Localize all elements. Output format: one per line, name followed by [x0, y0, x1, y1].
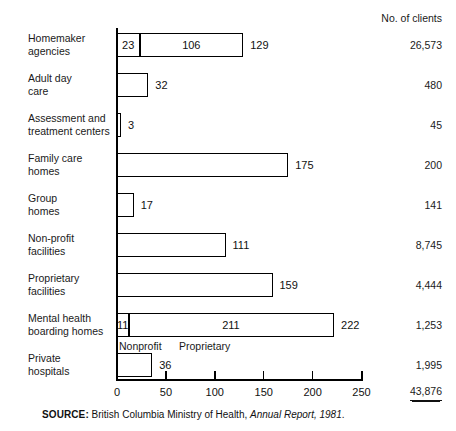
category-label: Adult daycare [28, 72, 112, 97]
category-label-line2: facilities [28, 285, 112, 298]
x-axis-line [116, 379, 363, 381]
chart-row: Homemakeragencies2310612926,573 [0, 33, 456, 57]
category-label-line2: treatment centers [28, 125, 112, 138]
bar-value-label: 159 [280, 273, 298, 297]
category-label: Family carehomes [28, 152, 112, 177]
bar-container: 11211 [117, 313, 334, 337]
bar-value-label: 32 [155, 73, 167, 97]
segment-value-proprietary: 211 [128, 313, 334, 337]
category-label-line1: Assessment and [28, 112, 112, 125]
x-axis-tick-label: 50 [160, 386, 172, 398]
chart-row: Adult daycare32480 [0, 73, 456, 97]
category-label: Assessment andtreatment centers [28, 112, 112, 137]
clients-value: 4,444 [416, 273, 442, 297]
clients-value: 141 [424, 193, 442, 217]
category-label-line2: homes [28, 205, 112, 218]
category-label-line2: facilities [28, 245, 112, 258]
bar-container [117, 233, 226, 257]
bar-container: 23106 [117, 33, 243, 57]
clients-value: 480 [424, 73, 442, 97]
x-axis-tick-label: 150 [255, 386, 273, 398]
bar [117, 273, 273, 297]
bar-value-label: 17 [141, 193, 153, 217]
bar-value-label: 129 [250, 33, 268, 57]
source-italic-title: Annual Report, 1981 [250, 409, 342, 420]
bar-container [117, 153, 288, 177]
bar [117, 353, 152, 377]
clients-value: 200 [424, 153, 442, 177]
segment-value-nonprofit: 11 [117, 313, 128, 337]
clients-value: 8,745 [416, 233, 442, 257]
clients-value: 1,995 [416, 353, 442, 377]
chart-row: Non-profitfacilities1118,745 [0, 233, 456, 257]
bar-value-label: 111 [233, 233, 250, 257]
source-period: . [342, 409, 345, 420]
source-text: British Columbia Ministry of Health, [92, 409, 248, 420]
x-axis-tick-label: 100 [206, 386, 224, 398]
bar-container [117, 273, 273, 297]
category-label-line1: Homemaker [28, 32, 112, 45]
segment-value-proprietary: 106 [139, 33, 243, 57]
bar-container [117, 113, 121, 137]
clients-column-header: No. of clients [381, 12, 442, 24]
category-label-line1: Family care [28, 152, 112, 165]
legend-label-nonprofit: Nonprofit [119, 340, 162, 352]
category-label-line1: Non-profit [28, 232, 112, 245]
source-note: SOURCE: British Columbia Ministry of Hea… [42, 409, 345, 420]
category-label: Mental healthboarding homes [28, 312, 112, 337]
chart-row: Privatehospitals361,995 [0, 353, 456, 377]
clients-value: 45 [430, 113, 442, 137]
chart-row: Family carehomes175200 [0, 153, 456, 177]
category-label-line2: care [28, 85, 112, 98]
category-label-line2: agencies [28, 45, 112, 58]
source-keyword: SOURCE: [42, 409, 89, 420]
x-axis-tick-label: 250 [352, 386, 370, 398]
chart-row: Mental healthboarding homes112112221,253 [0, 313, 456, 337]
bar-value-label: 3 [128, 113, 134, 137]
bar-chart-figure: No. of clients 050100150200250 Homemaker… [0, 0, 456, 431]
category-label-line1: Mental health [28, 312, 112, 325]
x-axis-tick-label: 0 [114, 386, 120, 398]
bar [117, 153, 288, 177]
category-label: Grouphomes [28, 192, 112, 217]
clients-value: 1,253 [416, 313, 442, 337]
category-label-line2: boarding homes [28, 325, 112, 338]
bar-value-label: 222 [341, 313, 359, 337]
legend-label-proprietary: Proprietary [179, 340, 230, 352]
x-axis-tick-label: 200 [303, 386, 321, 398]
category-label-line1: Group [28, 192, 112, 205]
category-label: Homemakeragencies [28, 32, 112, 57]
bar [117, 73, 148, 97]
category-label-line1: Proprietary [28, 272, 112, 285]
clients-total: 43,876 [410, 385, 442, 401]
category-label: Proprietaryfacilities [28, 272, 112, 297]
bar [117, 113, 121, 137]
segment-value-nonprofit: 23 [117, 33, 139, 57]
bar-container [117, 193, 134, 217]
chart-row: Assessment andtreatment centers345 [0, 113, 456, 137]
bar [117, 193, 134, 217]
chart-row: Proprietaryfacilities1594,444 [0, 273, 456, 297]
category-label-line2: hospitals [28, 365, 112, 378]
bar [117, 233, 226, 257]
bar-container [117, 73, 148, 97]
chart-row: Grouphomes17141 [0, 193, 456, 217]
category-label: Non-profitfacilities [28, 232, 112, 257]
clients-value: 26,573 [410, 33, 442, 57]
category-label-line2: homes [28, 165, 112, 178]
bar-value-label: 36 [159, 353, 171, 377]
bar-value-label: 175 [295, 153, 313, 177]
bar-container [117, 353, 152, 377]
category-label-line1: Adult day [28, 72, 112, 85]
category-label: Privatehospitals [28, 352, 112, 377]
category-label-line1: Private [28, 352, 112, 365]
